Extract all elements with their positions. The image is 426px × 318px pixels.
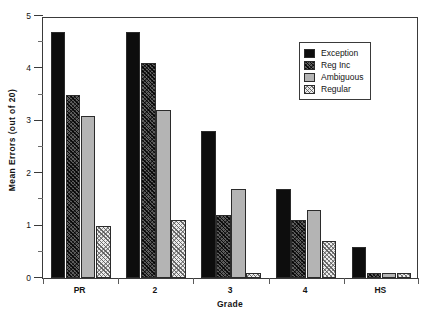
x-axis-tick [344,278,345,284]
legend-swatch-icon [304,61,315,70]
x-axis-tick-label: 2 [152,285,157,295]
bar [81,116,96,278]
y-axis-minor-tick [38,94,43,95]
legend-item: Regular [304,83,364,95]
x-axis-tick [193,278,194,284]
bar [216,215,231,278]
y-axis-tick: 5 [34,15,43,16]
x-axis-tick [418,278,419,284]
bar [171,220,186,278]
legend-item: Reg Inc [304,59,364,71]
legend-item-label: Exception [321,48,358,58]
x-axis-tick [118,278,119,284]
y-axis-minor-tick [38,198,43,199]
bar [231,189,246,278]
y-axis-tick-label: 1 [26,220,31,230]
y-axis-minor-tick [38,146,43,147]
x-axis-tick [43,278,44,284]
y-axis-title: Mean Errors (out of 20) [0,0,24,279]
legend-item: Exception [304,47,364,59]
x-axis-tick-label: 3 [228,285,233,295]
y-axis-tick-label: 3 [26,115,31,125]
y-axis-tick: 2 [34,172,43,173]
y-axis-tick-label: 4 [26,63,31,73]
bar [126,32,141,278]
bar [201,131,216,278]
bar [307,210,322,278]
bar [96,226,111,278]
x-axis-tick-label: HS [374,285,386,295]
x-axis-tick-label: PR [74,285,86,295]
bar [397,273,412,278]
bar [51,32,66,278]
y-axis-minor-tick [38,41,43,42]
legend-swatch-icon [304,49,315,58]
legend-item-label: Reg Inc [321,60,350,70]
bar [156,110,171,278]
bar [382,273,397,278]
y-axis-tick: 3 [34,120,43,121]
bar [66,95,81,278]
y-axis-title-text: Mean Errors (out of 20) [7,88,17,190]
bar-chart-figure: Mean Errors (out of 20) 012345 Grade Exc… [0,0,426,318]
y-axis-minor-tick [38,251,43,252]
bar [141,63,156,278]
y-axis-tick: 1 [34,225,43,226]
y-axis-tick-label: 0 [26,273,31,283]
x-axis-tick [269,278,270,284]
x-axis-title: Grade [42,299,418,309]
y-axis-tick: 0 [34,277,43,278]
legend-swatch-icon [304,73,315,82]
y-axis-tick-label: 2 [26,168,31,178]
legend-swatch-icon [304,85,315,94]
legend-item-label: Ambiguous [321,72,364,82]
bar [291,220,306,278]
bar [322,241,337,278]
x-axis-tick-label: 4 [303,285,308,295]
y-axis-tick-label: 5 [26,11,31,21]
bar [367,273,382,278]
bar [246,273,261,278]
bar [352,247,367,278]
legend-item-label: Regular [321,84,351,94]
bar [276,189,291,278]
legend-item: Ambiguous [304,71,364,83]
legend: ExceptionReg IncAmbiguousRegular [299,42,371,100]
y-axis-tick: 4 [34,67,43,68]
